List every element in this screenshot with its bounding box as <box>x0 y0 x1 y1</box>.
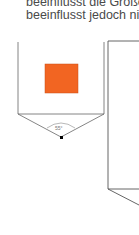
viewpoint-dot <box>60 136 63 139</box>
field-of-view-diagram <box>0 0 139 235</box>
orange-square <box>45 64 78 93</box>
angle-label: 55° <box>55 125 63 131</box>
right-frame <box>108 41 139 205</box>
